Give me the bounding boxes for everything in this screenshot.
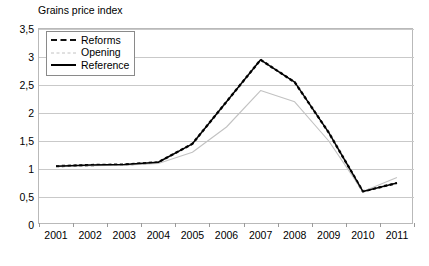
series-line [56, 60, 397, 192]
x-axis-tick-label: 2005 [181, 229, 204, 241]
chart-title: Grains price index [38, 4, 123, 16]
x-axis-tick-label: 2002 [78, 229, 101, 241]
y-axis-tick-label: 0 [28, 219, 34, 231]
legend-swatch-icon [51, 35, 76, 45]
x-axis-tick-label: 2003 [113, 229, 136, 241]
x-axis-tick-label: 2006 [215, 229, 238, 241]
y-axis-tick-label: 2 [28, 107, 34, 119]
legend-item: Reference [51, 59, 129, 72]
legend-swatch-icon [51, 60, 76, 70]
y-axis-tick-label: 3,5 [19, 23, 34, 35]
series-line [56, 60, 397, 192]
series-line [56, 91, 397, 192]
y-axis-tick-label: 0,5 [19, 191, 34, 203]
x-axis-tick [414, 223, 415, 227]
x-axis-tick-label: 2010 [351, 229, 374, 241]
legend-swatch-icon [51, 48, 76, 58]
chart-legend: ReformsOpeningReference [46, 31, 135, 76]
chart-figure: Grains price index 00,511,522,533,5 2001… [0, 0, 429, 266]
y-axis-tick-label: 3 [28, 51, 34, 63]
x-axis-tick-label: 2011 [386, 229, 409, 241]
legend-label: Reforms [81, 35, 121, 46]
y-axis-tick-label: 1 [28, 163, 34, 175]
y-axis-tick-label: 2,5 [19, 79, 34, 91]
x-axis-tick-label: 2004 [147, 229, 170, 241]
legend-label: Reference [81, 60, 129, 71]
y-axis-tick-label: 1,5 [19, 135, 34, 147]
legend-label: Opening [81, 47, 121, 58]
x-axis-tick-label: 2009 [317, 229, 340, 241]
legend-item: Reforms [51, 34, 129, 47]
x-axis-tick-label: 2008 [283, 229, 306, 241]
legend-item: Opening [51, 47, 129, 60]
x-axis-tick-label: 2007 [249, 229, 272, 241]
x-axis-tick-label: 2001 [44, 229, 67, 241]
